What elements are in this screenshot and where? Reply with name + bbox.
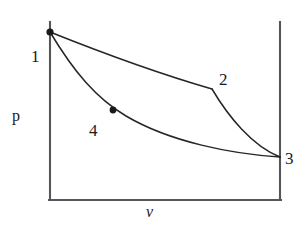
pressure-axis-label: p [12, 108, 20, 124]
state-point-marker-4 [110, 107, 117, 114]
process-curve-1-2 [50, 32, 212, 89]
state-label-3: 3 [285, 150, 294, 167]
state-label-2: 2 [219, 71, 228, 88]
process-curve-2-3 [212, 89, 280, 157]
state-point-marker-1 [46, 28, 53, 35]
process-curve-1-4-3 [50, 32, 280, 157]
pv-diagram: 1 2 3 4 p v [0, 0, 305, 229]
state-label-1: 1 [31, 48, 40, 65]
state-label-4: 4 [89, 122, 98, 139]
pv-diagram-canvas [0, 0, 305, 229]
volume-axis-label: v [146, 204, 153, 220]
